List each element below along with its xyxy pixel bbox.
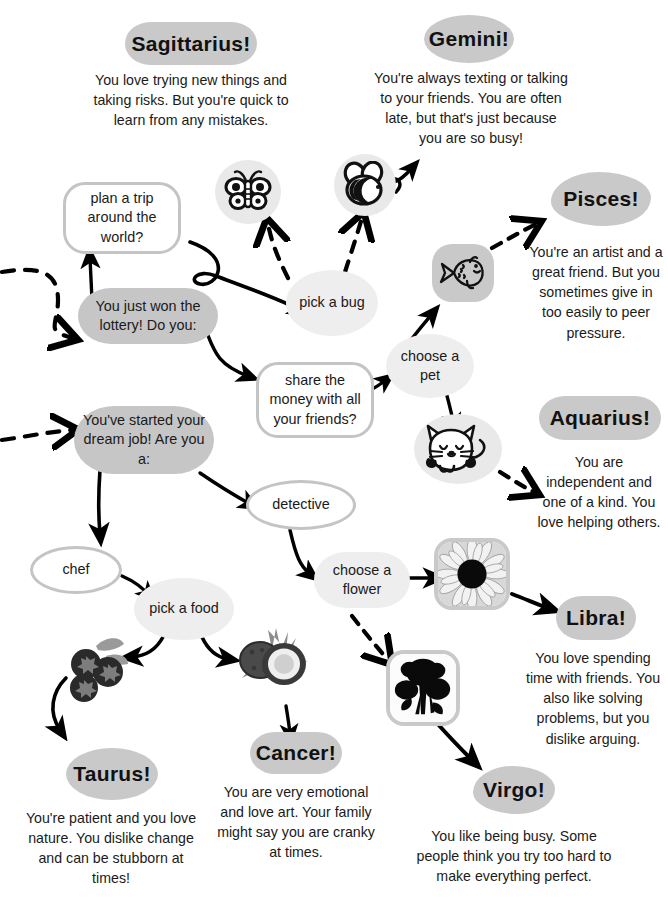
node-pick-a-bug[interactable]: pick a bug [286, 270, 378, 336]
coconut-image [228, 624, 316, 706]
sagittarius-label-text: Sagittarius! [131, 32, 250, 56]
berries-image [62, 632, 140, 704]
aquarius-label-text: Aquarius! [550, 406, 651, 430]
berries-photo [62, 632, 140, 704]
node-dream-job[interactable]: You've started your dream job! Are you a… [74, 406, 214, 474]
node-pick-a-food[interactable]: pick a food [134, 578, 234, 640]
zodiac-description-sagittarius: You love trying new things and taking ri… [85, 70, 297, 130]
node-plan-trip-text: plan a trip around the world? [74, 189, 170, 246]
virgo-label-text: Virgo! [483, 778, 545, 802]
libra-label-text: Libra! [566, 606, 626, 630]
node-detective-text: detective [272, 495, 330, 514]
node-choose-a-pet[interactable]: choose a pet [386, 334, 474, 398]
zodiac-label-aquarius: Aquarius! [539, 396, 661, 440]
node-chef[interactable]: chef [30, 546, 122, 594]
node-choose-flower-text: choose a flower [322, 561, 402, 599]
bee-icon [334, 154, 396, 216]
zodiac-description-aquarius: You are independent and one of a kind. Y… [534, 452, 664, 533]
coconut-photo [228, 624, 316, 706]
node-detective[interactable]: detective [246, 480, 356, 530]
zodiac-description-cancer: You are very emotional and love art. You… [216, 782, 376, 863]
zodiac-description-taurus: You're patient and you love nature. You … [18, 808, 204, 889]
node-won-lottery[interactable]: You just won the lottery! Do you: [78, 288, 218, 344]
node-choose-flower[interactable]: choose a flower [314, 552, 410, 608]
zodiac-label-gemini: Gemini! [424, 15, 514, 63]
zodiac-label-taurus: Taurus! [66, 748, 158, 800]
sunflower-image [438, 542, 506, 606]
roses-photo [386, 650, 460, 726]
zodiac-label-sagittarius: Sagittarius! [125, 22, 257, 65]
node-chef-text: chef [62, 560, 89, 579]
zodiac-label-cancer: Cancer! [250, 732, 342, 774]
node-choose-a-pet-text: choose a pet [394, 347, 466, 385]
butterfly-icon [215, 160, 281, 224]
sunflower-photo [434, 538, 510, 610]
node-dream-job-text: You've started your dream job! Are you a… [82, 411, 206, 468]
cancer-label-text: Cancer! [256, 741, 336, 765]
node-share-money-text: share the money with all your friends? [267, 371, 363, 428]
bee-glyph [339, 161, 391, 209]
node-share-money[interactable]: share the money with all your friends? [256, 362, 374, 438]
node-won-lottery-text: You just won the lottery! Do you: [86, 297, 210, 335]
taurus-label-text: Taurus! [73, 762, 151, 786]
cat-icon [414, 414, 502, 484]
pisces-label-text: Pisces! [563, 187, 639, 211]
cat-glyph [418, 418, 498, 480]
zodiac-description-virgo: You like being busy. Some people think y… [408, 826, 620, 886]
butterfly-glyph [222, 168, 274, 216]
fish-glyph [437, 253, 489, 293]
node-plan-trip[interactable]: plan a trip around the world? [63, 182, 181, 254]
node-pick-a-food-text: pick a food [149, 599, 219, 618]
gemini-label-text: Gemini! [429, 27, 509, 51]
zodiac-description-libra: You love spending time with friends. You… [520, 648, 666, 749]
zodiac-description-gemini: You're always texting or talking to your… [372, 68, 570, 149]
zodiac-flowchart: Sagittarius! You love trying new things … [0, 0, 668, 908]
zodiac-description-pisces: You're an artist and a great friend. But… [528, 242, 664, 343]
roses-image [390, 654, 456, 722]
node-pick-a-bug-text: pick a bug [299, 293, 365, 312]
zodiac-label-libra: Libra! [556, 596, 636, 640]
zodiac-label-pisces: Pisces! [551, 172, 651, 226]
fish-icon [432, 244, 494, 302]
zodiac-label-virgo: Virgo! [473, 766, 555, 814]
